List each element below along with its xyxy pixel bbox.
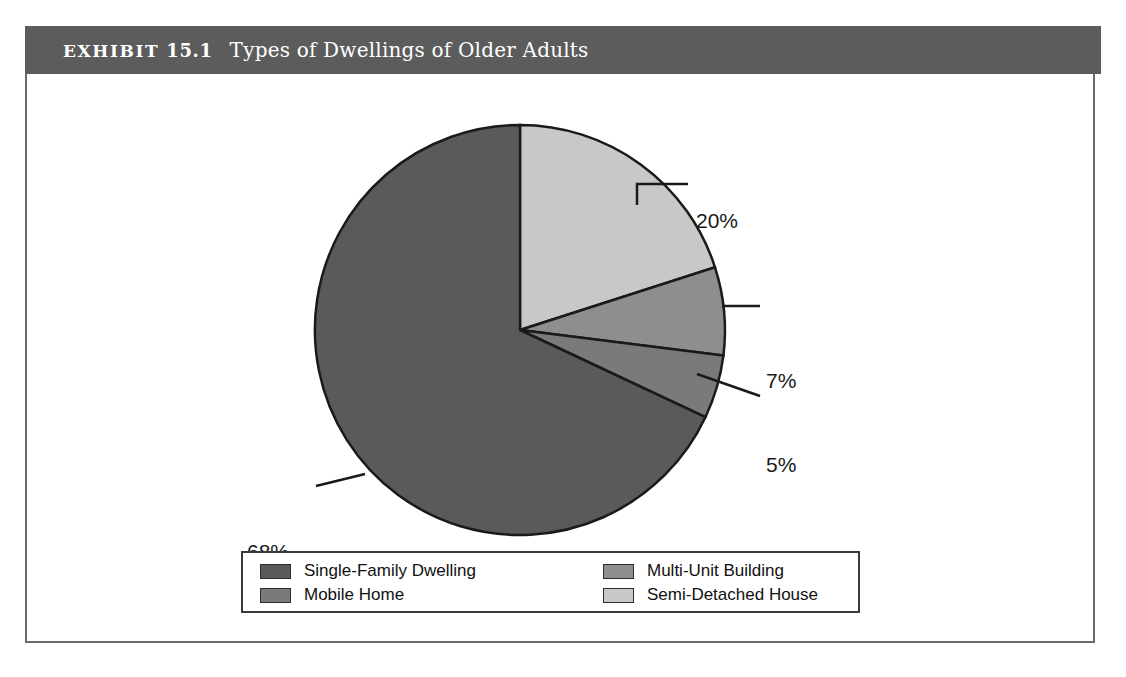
exhibit-label: EXHIBIT	[63, 41, 159, 61]
exhibit-number: 15.1	[166, 40, 212, 61]
data-label-semi-detached: 20%	[696, 209, 738, 233]
legend-swatch-single-family-dwelling	[260, 564, 291, 579]
legend-label-single-family-dwelling: Single-Family Dwelling	[304, 561, 476, 581]
chart-legend: Single-Family Dwelling Multi-Unit Buildi…	[241, 551, 860, 613]
legend-swatch-mobile-home	[260, 588, 291, 603]
legend-label-mobile-home: Mobile Home	[304, 585, 404, 605]
legend-row: Single-Family Dwelling Multi-Unit Buildi…	[260, 559, 858, 583]
legend-item-semi-detached-house: Semi-Detached House	[603, 585, 818, 605]
legend-swatch-multi-unit-building	[603, 564, 634, 579]
exhibit-header-bar: EXHIBIT15.1Types of Dwellings of Older A…	[25, 26, 1101, 74]
legend-label-semi-detached-house: Semi-Detached House	[647, 585, 818, 605]
data-label-mobile-home: 5%	[766, 453, 796, 477]
legend-swatch-semi-detached-house	[603, 588, 634, 603]
data-label-multi-unit: 7%	[766, 369, 796, 393]
exhibit-title: Types of Dwellings of Older Adults	[230, 38, 589, 62]
legend-item-single-family-dwelling: Single-Family Dwelling	[260, 561, 603, 581]
legend-item-multi-unit-building: Multi-Unit Building	[603, 561, 784, 581]
exhibit-header-text: EXHIBIT15.1Types of Dwellings of Older A…	[25, 38, 589, 62]
legend-row: Mobile Home Semi-Detached House	[260, 583, 858, 607]
leader-line-single-family	[316, 474, 365, 486]
legend-label-multi-unit-building: Multi-Unit Building	[647, 561, 784, 581]
legend-item-mobile-home: Mobile Home	[260, 585, 603, 605]
